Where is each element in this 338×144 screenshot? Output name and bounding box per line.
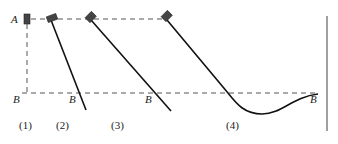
point-b-label-4: B [310,94,317,105]
block-3 [85,11,96,22]
block-2 [46,13,57,22]
panel-label-2: (2) [56,120,69,131]
point-b-label-2: B [69,94,76,105]
diagram-canvas [0,0,338,144]
point-b-label-3: B [145,94,152,105]
block-1 [24,14,30,24]
panel-label-4: (4) [226,120,239,131]
rod-4-curve [167,20,318,114]
panel-label-1: (1) [19,120,32,131]
block-4 [161,10,172,21]
panel-label-3: (3) [111,120,124,131]
rod-3 [91,20,171,111]
point-a-label: A [11,14,18,25]
point-b-label-1: B [13,94,20,105]
